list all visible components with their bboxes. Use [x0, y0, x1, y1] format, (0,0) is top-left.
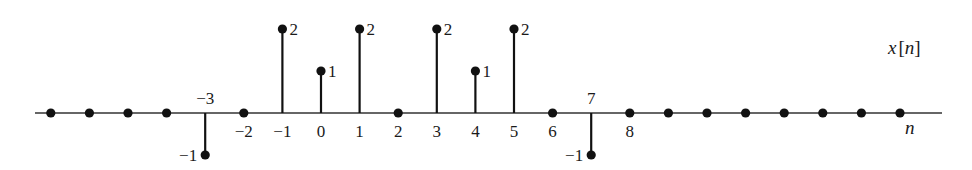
stem-dot	[509, 24, 518, 33]
value-label: 2	[444, 20, 453, 39]
stem-dot	[741, 108, 750, 117]
x-tick-label: 1	[355, 122, 364, 141]
x-tick-label: 6	[548, 122, 557, 141]
stem-dot	[316, 66, 325, 75]
stem-dot	[123, 108, 132, 117]
x-tick-label: −1	[273, 122, 291, 141]
stem-dot	[162, 108, 171, 117]
signal-title-n: n	[905, 37, 915, 58]
signal-title-close: ]	[914, 37, 920, 58]
x-tick-label: 7	[587, 89, 596, 108]
stem-dot	[432, 24, 441, 33]
value-label: −1	[565, 146, 583, 165]
stem-dot	[702, 108, 711, 117]
plot-canvas: −3−2−1012345678 −1212212−1 n x[n]	[0, 0, 972, 170]
stem-dot	[818, 108, 827, 117]
x-axis-label: n	[905, 117, 915, 138]
stem-dot	[239, 108, 248, 117]
x-tick-label: 8	[626, 122, 635, 141]
stem-dot	[471, 66, 480, 75]
stem-dot	[278, 24, 287, 33]
x-tick-label: 3	[433, 122, 442, 141]
value-label: 2	[289, 20, 298, 39]
value-label: 1	[482, 62, 491, 81]
stem-dot	[587, 150, 596, 159]
stem-dot	[394, 108, 403, 117]
value-label: −1	[179, 146, 197, 165]
signal-title: x[n]	[887, 37, 921, 58]
stem-dot	[46, 108, 55, 117]
stem-dot	[625, 108, 634, 117]
stem-dot	[780, 108, 789, 117]
stem-plot: −3−2−1012345678 −1212212−1 n x[n]	[0, 0, 972, 170]
x-tick-label: 0	[317, 122, 326, 141]
stem-dot	[664, 108, 673, 117]
x-tick-label: −2	[235, 122, 253, 141]
value-label: 2	[521, 20, 530, 39]
stem-dot	[355, 24, 364, 33]
x-tick-label: 4	[471, 122, 480, 141]
stem-dot	[201, 150, 210, 159]
value-label: 2	[367, 20, 376, 39]
x-tick-label: −3	[196, 89, 214, 108]
signal-title-x: x	[887, 37, 897, 58]
stem-dot	[857, 108, 866, 117]
stem-dot	[548, 108, 557, 117]
stem-dot	[85, 108, 94, 117]
tick-labels-group: −3−2−1012345678	[196, 89, 634, 141]
value-label: 1	[328, 62, 337, 81]
stem-dot	[895, 108, 904, 117]
x-tick-label: 2	[394, 122, 403, 141]
x-tick-label: 5	[510, 122, 519, 141]
value-labels-group: −1212212−1	[179, 20, 583, 165]
